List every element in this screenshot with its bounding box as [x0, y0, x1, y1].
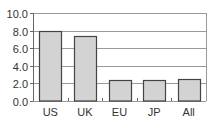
x-tick-label: EU	[105, 106, 135, 118]
y-tick-label: 8.0	[0, 26, 28, 38]
x-tick-label: UK	[70, 106, 100, 118]
bar-us	[40, 32, 62, 102]
x-tick-label: All	[174, 106, 204, 118]
x-tick-label: JP	[139, 106, 169, 118]
bar-all	[179, 80, 201, 102]
y-tick-label: 4.0	[0, 61, 28, 73]
bar-jp	[144, 81, 166, 102]
bar-eu	[110, 81, 132, 102]
y-tick-label: 10.0	[0, 8, 28, 20]
bar-uk	[75, 37, 97, 102]
y-tick-label: 6.0	[0, 43, 28, 55]
x-tick-label: US	[35, 106, 65, 118]
y-tick-label: 2.0	[0, 78, 28, 90]
y-tick-label: 0.0	[0, 96, 28, 108]
bar-chart: 0.02.04.06.08.010.0 USUKEUJPAll	[0, 0, 218, 124]
